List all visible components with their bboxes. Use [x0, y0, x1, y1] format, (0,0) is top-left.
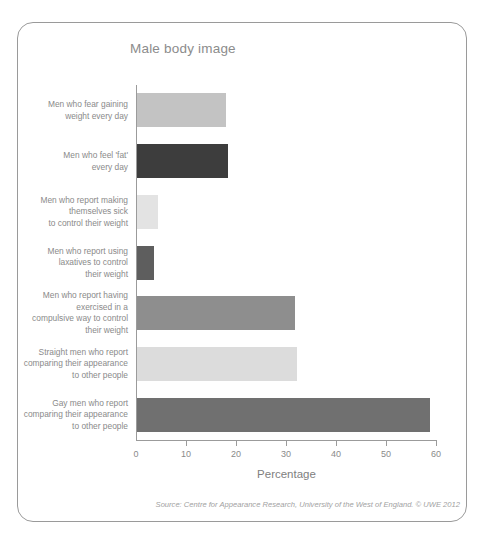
bar-row: Men who fear gaining weight every day — [137, 93, 226, 127]
x-axis-tick-label: 40 — [331, 449, 341, 459]
chart-title: Male body image — [130, 41, 236, 56]
bar — [137, 398, 430, 432]
bar-row: Men who feel 'fat' every day — [137, 144, 228, 178]
x-axis-tick-mark — [436, 441, 437, 446]
bar-row: Men who report using laxatives to contro… — [137, 246, 154, 280]
bar-row: Straight men who report comparing their … — [137, 347, 297, 381]
bar — [137, 296, 295, 330]
bar-row: Men who report making themselves sick to… — [137, 195, 158, 229]
bar — [137, 93, 226, 127]
x-axis-tick-label: 20 — [231, 449, 241, 459]
bar-category-label: Men who feel 'fat' every day — [16, 150, 128, 173]
x-axis-tick-mark — [286, 441, 287, 446]
x-axis-tick-mark — [186, 441, 187, 446]
source-note: Source: Centre for Appearance Research, … — [0, 500, 460, 509]
x-axis-tick-label: 50 — [381, 449, 391, 459]
plot-area — [136, 85, 436, 440]
bar — [137, 246, 154, 280]
x-axis-tick-label: 0 — [133, 449, 138, 459]
x-axis-title: Percentage — [136, 468, 437, 480]
bar-category-label: Men who report using laxatives to contro… — [16, 245, 128, 280]
bar-category-label: Men who fear gaining weight every day — [16, 99, 128, 122]
x-axis-tick-mark — [236, 441, 237, 446]
bar-category-label: Straight men who report comparing their … — [16, 347, 128, 382]
x-axis-tick-mark — [386, 441, 387, 446]
x-axis-tick-mark — [336, 441, 337, 446]
bar-row: Gay men who report comparing their appea… — [137, 398, 430, 432]
bar — [137, 195, 158, 229]
bar-category-label: Gay men who report comparing their appea… — [16, 397, 128, 432]
bar-category-label: Men who report having exercised in a com… — [16, 290, 128, 336]
x-axis-tick-label: 60 — [431, 449, 441, 459]
bar-category-label: Men who report making themselves sick to… — [16, 195, 128, 230]
x-axis-tick-label: 10 — [181, 449, 191, 459]
x-axis-tick-label: 30 — [281, 449, 291, 459]
bar — [137, 347, 297, 381]
bar — [137, 144, 228, 178]
bar-row: Men who report having exercised in a com… — [137, 296, 295, 330]
